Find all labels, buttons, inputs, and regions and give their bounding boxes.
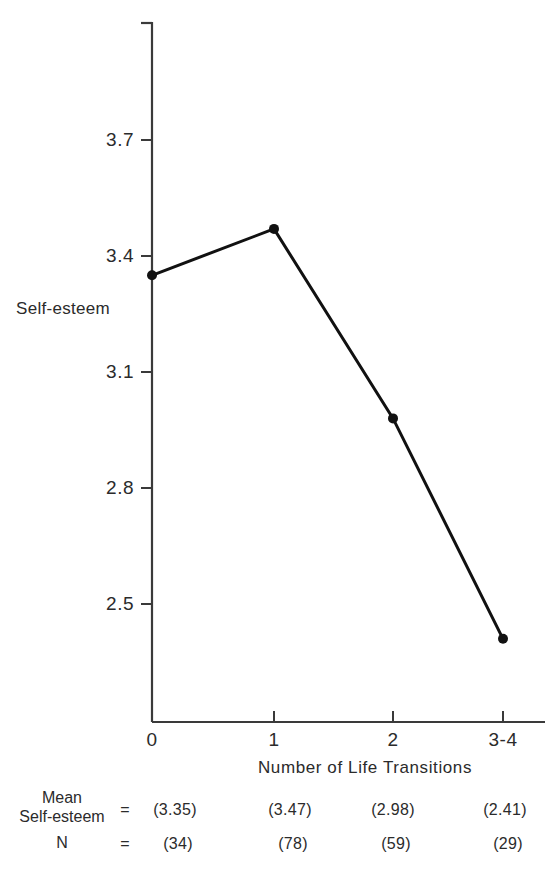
x-axis-title: Number of Life Transitions: [190, 758, 540, 778]
y-tick-label-3.7: 3.7: [74, 130, 134, 149]
stats-row-label-mean-line1: Mean: [8, 790, 116, 807]
data-point-2: [388, 413, 398, 423]
stats-n-value-2: (59): [359, 835, 433, 853]
stats-equals-n: =: [116, 835, 134, 853]
plot-area: [0, 0, 551, 790]
y-tick-label-3.1: 3.1: [74, 362, 134, 381]
stats-row-label-n: N: [8, 835, 116, 852]
stats-row-label-mean-line2: Self-esteem: [8, 809, 116, 826]
stats-n-value-0: (34): [141, 835, 215, 853]
stats-table: Mean Self-esteem N = = (3.35) (3.47) (2.…: [0, 790, 551, 869]
data-line-self-esteem: [152, 229, 503, 639]
figure-line-chart: 3.7 3.4 3.1 2.8 2.5 0 1 2 3-4 Self-estee…: [0, 0, 551, 869]
data-point-0: [147, 270, 157, 280]
stats-equals-mean: =: [116, 801, 134, 819]
stats-mean-value-1: (3.47): [253, 801, 327, 819]
data-point-group: [147, 224, 508, 644]
data-point-3-4: [498, 634, 508, 644]
x-tick-label-2: 2: [363, 730, 423, 749]
data-point-1: [269, 224, 279, 234]
x-tick-label-3-4: 3-4: [473, 730, 533, 749]
y-tick-label-2.8: 2.8: [74, 478, 134, 497]
stats-n-value-3: (29): [471, 835, 545, 853]
stats-mean-value-0: (3.35): [138, 801, 212, 819]
x-tick-label-0: 0: [122, 730, 182, 749]
x-tick-label-1: 1: [244, 730, 304, 749]
y-tick-label-3.4: 3.4: [74, 246, 134, 265]
y-tick-label-2.5: 2.5: [74, 594, 134, 613]
stats-mean-value-3: (2.41): [468, 801, 542, 819]
stats-mean-value-2: (2.98): [356, 801, 430, 819]
stats-n-value-1: (78): [256, 835, 330, 853]
y-axis-title: Self-esteem: [16, 299, 142, 319]
